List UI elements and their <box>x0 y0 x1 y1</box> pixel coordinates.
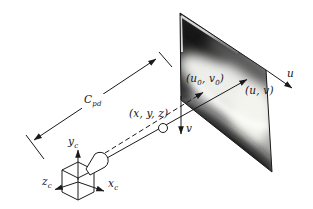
dimension-tick-right <box>159 52 172 67</box>
cam-z-sub: c <box>48 182 52 190</box>
principal-point-label: (u0, v0) <box>186 73 224 88</box>
image-point-label: (u, v) <box>245 85 274 97</box>
camera-y-label: yc <box>68 136 78 151</box>
camera-x-label: xc <box>108 178 118 193</box>
principal-close: ) <box>220 72 224 84</box>
u-axis-label: u <box>287 68 294 80</box>
distance-label: Cpd <box>82 94 104 109</box>
camera-z-label: zc <box>42 176 52 191</box>
world-point-marker <box>159 124 168 133</box>
principal-open: (u <box>186 72 197 84</box>
distance-sub: pd <box>92 100 101 108</box>
figure-canvas: u v (u0, v0) (u, v) (x, y, z) Cpd yc zc … <box>0 0 313 209</box>
cam-y-sub: c <box>74 142 78 150</box>
cam-x-sub: c <box>114 184 118 192</box>
camera-lens <box>86 152 108 175</box>
principal-mid: , v <box>202 72 215 84</box>
dimension-tick-left <box>26 135 44 159</box>
world-point-label: (x, y, z) <box>129 108 168 120</box>
v-axis-label: v <box>186 123 192 135</box>
distance-base: C <box>84 93 92 105</box>
